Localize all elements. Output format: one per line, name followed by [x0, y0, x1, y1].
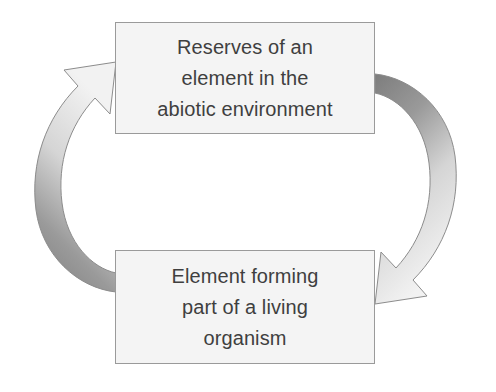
reserves-node-line-3: abiotic environment: [157, 94, 332, 125]
cycle-diagram: Reserves of an element in the abiotic en…: [0, 0, 496, 392]
organism-node-line-3: organism: [203, 323, 286, 354]
organism-node-line-1: Element forming: [171, 261, 318, 292]
reserves-node-line-2: element in the: [181, 63, 308, 94]
organism-node: Element forming part of a living organis…: [115, 250, 375, 364]
left-curved-arrow: [35, 62, 116, 292]
right-curved-arrow: [375, 74, 456, 304]
organism-node-line-2: part of a living: [182, 292, 308, 323]
reserves-node: Reserves of an element in the abiotic en…: [115, 22, 375, 134]
reserves-node-line-1: Reserves of an: [177, 32, 313, 63]
